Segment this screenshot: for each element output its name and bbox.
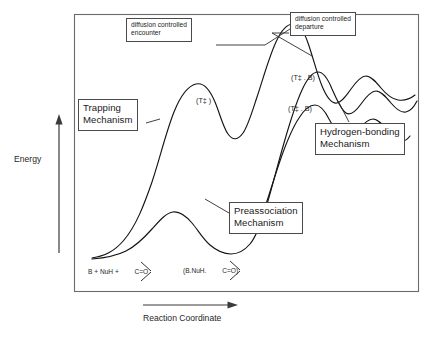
callout-trapping-line2: Mechanism [83,114,133,126]
reaction-coordinate-axis-arrowhead [228,301,239,308]
callout-preassoc-line2: Mechanism [234,217,298,229]
callout-trapping-line1: Trapping [83,102,133,114]
callout-encounter-line1: diffusion controlled [131,21,187,29]
callout-diffusion-controlled-departure[interactable]: diffusion controlled departure [290,12,356,36]
callout-hbond-line2: Mechanism [320,138,400,150]
callout-encounter-line2: encounter [131,29,187,37]
formula-reactants: B + NuH + C=O [88,268,148,275]
formula-reactants-carbonyl: C=O [134,268,148,275]
callout-departure-line2: departure [295,23,351,31]
callout-trapping-mechanism[interactable]: Trapping Mechanism [78,99,138,131]
callout-departure-line1: diffusion controlled [295,15,351,23]
formula-complex-carbonyl: C=O) [222,267,238,274]
diagram-canvas [0,0,437,339]
formula-complex-open: (B.NuH. [183,267,206,274]
callout-hbond-line1: Hydrogen-bonding [320,126,400,138]
formula-reactants-text: B + NuH + [88,268,119,275]
energy-axis-label: Energy [14,154,41,164]
callout-preassociation-mechanism[interactable]: Preassociation Mechanism [229,202,303,234]
reaction-coordinate-diagram: diffusion controlled encounter diffusion… [0,0,437,339]
formula-encounter-complex: (B.NuH. C=O) [183,267,238,274]
reaction-coordinate-axis [143,301,238,308]
callout-hydrogen-bonding-mechanism[interactable]: Hydrogen-bonding Mechanism [315,123,405,155]
energy-axis-arrowhead [55,114,62,125]
transition-state-label-pair-lower: (T‡ . B) [288,104,312,113]
callout-preassoc-line1: Preassociation [234,205,298,217]
energy-axis [55,114,62,253]
callout-diffusion-controlled-encounter[interactable]: diffusion controlled encounter [126,18,192,42]
transition-state-label-single: (T‡ ) [196,96,211,105]
transition-state-label-pair-upper: (T‡ . B) [291,73,315,82]
reaction-coordinate-axis-label: Reaction Coordinate [143,313,221,323]
